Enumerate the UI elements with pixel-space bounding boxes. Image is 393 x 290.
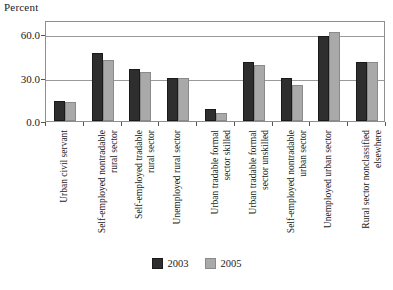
bar-group <box>129 22 151 121</box>
x-tick-mark <box>45 122 46 126</box>
bar-2003 <box>129 69 140 121</box>
bar-2005 <box>178 78 189 121</box>
bar-group <box>243 22 265 121</box>
category-label-line: sector skilled <box>221 130 233 242</box>
x-axis-category-label: Self-employed nontradablerural sector <box>96 130 122 242</box>
legend-entry-2005: 2005 <box>205 258 242 269</box>
x-tick-mark <box>385 122 386 126</box>
bar-2005 <box>216 113 227 121</box>
bar-2005 <box>292 85 303 121</box>
category-label-line: Urban tradable formal <box>247 130 259 242</box>
x-axis-category-label: Urban tradable formalsector unskilled <box>247 130 273 242</box>
bar-group <box>205 22 227 121</box>
x-axis-category-label: Urban civil servant <box>58 130 84 242</box>
x-tick-mark <box>309 122 310 126</box>
x-tick-mark <box>347 122 348 126</box>
category-label-line: Self-employed tradable <box>133 130 145 242</box>
x-tick-mark <box>196 122 197 126</box>
bar-2005 <box>140 72 151 121</box>
x-axis-category-label: Rural sector nonclassifiedelsewhere <box>360 130 386 242</box>
bar-2003 <box>205 109 216 121</box>
bar-group <box>281 22 303 121</box>
category-label-line: elsewhere <box>372 130 384 242</box>
y-tick-mark <box>41 79 45 80</box>
legend-label: 2005 <box>221 258 242 269</box>
category-label-line: Unemployed rural sector <box>171 130 183 242</box>
y-axis-title: Percent <box>4 1 38 13</box>
bar-2005 <box>329 32 340 121</box>
category-label-line: sector unskilled <box>259 130 271 242</box>
bar-2005 <box>103 60 114 121</box>
bar-2003 <box>243 62 254 121</box>
chart-legend: 20032005 <box>0 258 393 269</box>
x-tick-mark <box>272 122 273 126</box>
legend-entry-2003: 2003 <box>152 258 189 269</box>
category-label-line: rural sector <box>145 130 157 242</box>
bar-2005 <box>367 62 378 121</box>
x-tick-mark <box>158 122 159 126</box>
category-label-line: Urban civil servant <box>58 130 70 242</box>
legend-swatch-icon <box>152 258 163 269</box>
x-axis-category-label: Unemployed urban sector <box>322 130 348 242</box>
bar-group <box>92 22 114 121</box>
category-label-line: Unemployed urban sector <box>322 130 334 242</box>
bar-2003 <box>167 78 178 121</box>
y-tick-label: 60.0 <box>6 29 40 41</box>
plot-area <box>45 21 385 122</box>
legend-label: 2003 <box>168 258 189 269</box>
category-label-line: Urban tradable formal <box>209 130 221 242</box>
category-label-line: rural sector <box>108 130 120 242</box>
x-tick-mark <box>83 122 84 126</box>
category-label-line: Rural sector nonclassified <box>360 130 372 242</box>
category-label-line: Self-employed nontradable <box>96 130 108 242</box>
bar-group <box>54 22 76 121</box>
bar-2005 <box>65 102 76 121</box>
x-axis-category-label: Self-employed nontradableurban sector <box>285 130 311 242</box>
bar-group <box>356 22 378 121</box>
y-tick-mark <box>41 35 45 36</box>
category-label-line: Self-employed nontradable <box>285 130 297 242</box>
x-tick-mark <box>121 122 122 126</box>
bar-group <box>318 22 340 121</box>
bar-2005 <box>254 65 265 121</box>
bar-2003 <box>54 101 65 121</box>
x-axis-category-label: Self-employed tradablerural sector <box>133 130 159 242</box>
category-label-line: urban sector <box>297 130 309 242</box>
bar-2003 <box>92 53 103 121</box>
y-tick-label: 30.0 <box>6 73 40 85</box>
x-axis-category-label: Unemployed rural sector <box>171 130 197 242</box>
bar-2003 <box>356 62 367 121</box>
bar-2003 <box>318 36 329 121</box>
legend-swatch-icon <box>205 258 216 269</box>
bar-group <box>167 22 189 121</box>
bar-2003 <box>281 78 292 121</box>
chart-figure: Percent 0.030.060.0Urban civil servantSe… <box>0 0 393 290</box>
x-axis-category-label: Urban tradable formalsector skilled <box>209 130 235 242</box>
y-tick-label: 0.0 <box>6 116 40 128</box>
x-tick-mark <box>234 122 235 126</box>
